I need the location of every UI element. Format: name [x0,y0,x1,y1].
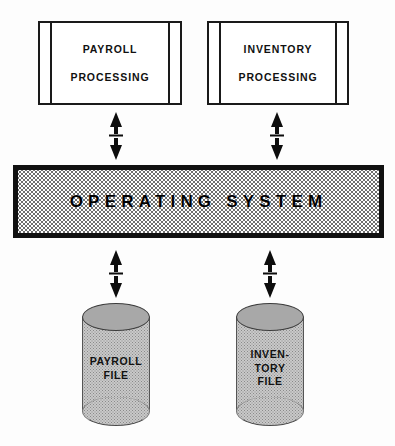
data-store-label-line-2: TORY [236,362,304,376]
predefined-process-left-rail [50,23,52,103]
process-label-line-2: PROCESSING [70,72,149,83]
data-store-label-line-1: PAYROLL [82,355,150,369]
data-store-label: INVEN- TORY FILE [236,348,304,389]
arrowhead-up-icon [264,250,276,272]
process-label-line-1: PAYROLL [83,44,138,55]
cylinder-top-ellipse [236,303,304,331]
arrowhead-down-icon [110,138,122,160]
cylinder-top-ellipse [82,303,150,331]
predefined-process-left-rail [219,23,221,103]
predefined-process-right-rail [168,23,170,103]
connector-os-to-payroll-file [108,250,124,298]
arrowhead-up-icon [110,112,122,134]
predefined-process-right-rail [335,23,337,103]
arrowhead-down-icon [271,138,283,160]
arrow-shaft [270,135,284,137]
process-box-inventory-processing[interactable]: INVENTORY PROCESSING [207,21,349,105]
data-store-label-line-2: FILE [82,369,150,383]
arrowhead-down-icon [110,276,122,298]
connector-os-to-inventory-file [262,250,278,298]
connector-payroll-processing-to-os [108,112,124,160]
arrow-shaft [109,135,123,137]
arrowhead-up-icon [110,250,122,272]
data-store-label: PAYROLL FILE [82,355,150,382]
operating-system-label: OPERATING SYSTEM [70,192,328,212]
data-store-label-line-3: FILE [236,375,304,389]
connector-inventory-processing-to-os [269,112,285,160]
cylinder-bottom-ellipse [236,397,304,426]
diagram-canvas: PAYROLL PROCESSING INVENTORY PROCESSING … [0,0,395,446]
process-label-line-2: PROCESSING [238,72,317,83]
data-store-payroll-file[interactable]: PAYROLL FILE [82,303,150,426]
arrowhead-up-icon [271,112,283,134]
cylinder-bottom-ellipse [82,397,150,426]
data-store-inventory-file[interactable]: INVEN- TORY FILE [236,303,304,426]
operating-system-bar[interactable]: OPERATING SYSTEM [13,165,384,238]
process-box-payroll-processing[interactable]: PAYROLL PROCESSING [38,21,182,105]
arrow-shaft [263,273,277,275]
data-store-label-line-1: INVEN- [236,348,304,362]
arrow-shaft [109,273,123,275]
process-label-line-1: INVENTORY [244,44,313,55]
arrowhead-down-icon [264,276,276,298]
